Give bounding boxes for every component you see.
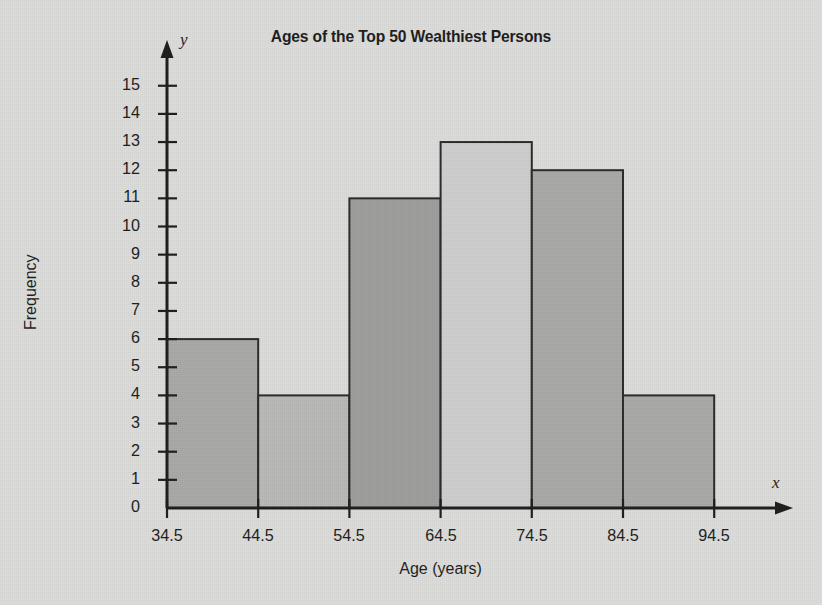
- y-tick-label: 11: [79, 187, 140, 207]
- x-axis-variable-label: x: [772, 473, 780, 493]
- x-tick-label: 44.5: [211, 526, 306, 546]
- x-tick-label: 74.5: [484, 526, 579, 546]
- bars-group: [167, 142, 714, 508]
- x-tick-label: 84.5: [576, 526, 671, 546]
- histogram-bar: [532, 170, 623, 508]
- x-tick-label: 54.5: [302, 526, 397, 546]
- y-tick-label: 10: [79, 216, 140, 236]
- histogram-bar: [167, 339, 258, 508]
- y-axis-title: Frequency: [22, 254, 40, 330]
- y-tick-label: 4: [79, 384, 140, 404]
- histogram-bar: [258, 395, 349, 508]
- histogram-figure: Ages of the Top 50 Wealthiest Persons 01…: [0, 0, 822, 605]
- y-tick-label: 3: [79, 413, 140, 433]
- x-axis-title: Age (years): [87, 560, 794, 578]
- x-tick-label: 94.5: [667, 526, 762, 546]
- histogram-bar: [623, 395, 714, 508]
- y-tick-label: 14: [79, 103, 140, 123]
- y-axis-variable-label: y: [180, 30, 188, 50]
- y-tick-label: 1: [79, 469, 140, 489]
- y-tick-label: 0: [79, 497, 140, 517]
- x-tick-label: 34.5: [120, 526, 215, 546]
- y-tick-label: 5: [79, 356, 140, 376]
- histogram-bar: [441, 142, 532, 508]
- y-tick-label: 7: [79, 300, 140, 320]
- y-tick-label: 12: [79, 159, 140, 179]
- y-tick-label: 9: [79, 244, 140, 264]
- y-tick-label: 15: [79, 75, 140, 95]
- y-tick-label: 6: [79, 328, 140, 348]
- y-tick-label: 2: [79, 441, 140, 461]
- y-tick-label: 8: [79, 272, 140, 292]
- histogram-bar: [349, 198, 440, 508]
- x-tick-label: 64.5: [393, 526, 488, 546]
- y-tick-label: 13: [79, 131, 140, 151]
